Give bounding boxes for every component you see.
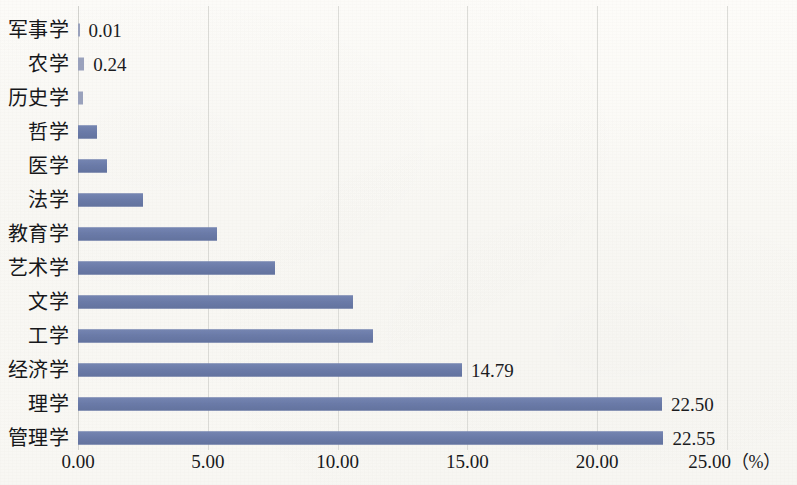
bar bbox=[78, 228, 217, 241]
x-axis-unit-label: （%） bbox=[731, 452, 781, 472]
category-label: 历史学 bbox=[8, 88, 70, 108]
bar bbox=[78, 58, 84, 71]
gridline-25.00 bbox=[727, 6, 728, 450]
category-label: 管理学 bbox=[8, 428, 70, 448]
category-label: 理学 bbox=[28, 394, 69, 414]
bar bbox=[78, 398, 662, 411]
bar-row: 管理学22.55 bbox=[78, 421, 727, 455]
bar-row: 工学 bbox=[78, 319, 727, 353]
bar-value-label: 14.79 bbox=[471, 361, 514, 380]
bar-rows: 军事学0.01农学0.24历史学哲学医学法学教育学艺术学文学工学经济学14.79… bbox=[78, 6, 727, 450]
x-axis-tick-label: 15.00 bbox=[446, 452, 489, 471]
category-label: 医学 bbox=[28, 156, 69, 176]
category-label: 哲学 bbox=[28, 122, 69, 142]
bar bbox=[78, 262, 275, 275]
bar-row: 法学 bbox=[78, 183, 727, 217]
bar bbox=[78, 92, 83, 105]
bar-row: 教育学 bbox=[78, 217, 727, 251]
bar-row: 医学 bbox=[78, 149, 727, 183]
category-label: 工学 bbox=[28, 326, 69, 346]
x-axis-tick-label: 0.00 bbox=[61, 452, 94, 471]
bar-value-label: 0.01 bbox=[89, 21, 122, 40]
category-label: 军事学 bbox=[8, 20, 70, 40]
bar bbox=[78, 24, 80, 37]
bar-chart: 军事学0.01农学0.24历史学哲学医学法学教育学艺术学文学工学经济学14.79… bbox=[0, 0, 797, 485]
bar bbox=[78, 432, 663, 445]
bar-row: 经济学14.79 bbox=[78, 353, 727, 387]
bar-row: 艺术学 bbox=[78, 251, 727, 285]
bar-row: 军事学0.01 bbox=[78, 13, 727, 47]
x-axis-tick-label: 5.00 bbox=[191, 452, 224, 471]
x-axis: 0.005.0010.0015.0020.0025.00（%） bbox=[78, 452, 727, 485]
bar-value-label: 22.50 bbox=[671, 395, 714, 414]
bar bbox=[78, 364, 462, 377]
category-label: 经济学 bbox=[8, 360, 70, 380]
bar-row: 哲学 bbox=[78, 115, 727, 149]
category-label: 文学 bbox=[28, 292, 69, 312]
plot-area: 军事学0.01农学0.24历史学哲学医学法学教育学艺术学文学工学经济学14.79… bbox=[78, 6, 727, 450]
bar bbox=[78, 194, 143, 207]
bar bbox=[78, 160, 107, 173]
category-label: 教育学 bbox=[8, 224, 70, 244]
category-label: 法学 bbox=[28, 190, 69, 210]
bar-value-label: 0.24 bbox=[93, 55, 126, 74]
category-label: 艺术学 bbox=[8, 258, 70, 278]
category-label: 农学 bbox=[28, 54, 69, 74]
bar bbox=[78, 126, 97, 139]
x-axis-tick-label: 20.00 bbox=[576, 452, 619, 471]
bar-row: 农学0.24 bbox=[78, 47, 727, 81]
bar bbox=[78, 296, 353, 309]
bar-row: 理学22.50 bbox=[78, 387, 727, 421]
bar-row: 文学 bbox=[78, 285, 727, 319]
bar-row: 历史学 bbox=[78, 81, 727, 115]
bar-value-label: 22.55 bbox=[672, 429, 715, 448]
x-axis-tick-label: 10.00 bbox=[316, 452, 359, 471]
bar bbox=[78, 330, 373, 343]
x-axis-tick-label: 25.00（%） bbox=[688, 452, 780, 471]
